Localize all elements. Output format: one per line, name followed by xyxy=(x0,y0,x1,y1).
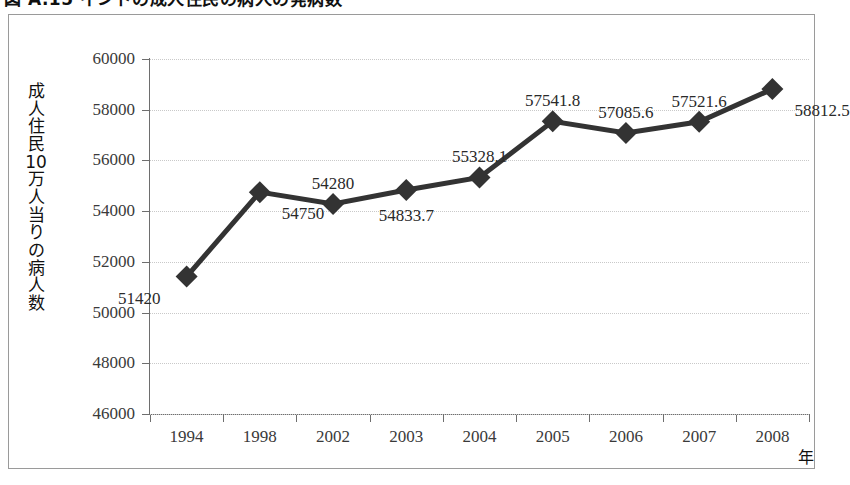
y-tick-label: 46000 xyxy=(65,404,135,424)
data-point-marker[interactable] xyxy=(395,179,417,201)
data-point-label: 55328.1 xyxy=(452,147,507,167)
plot-area: 51420547505428054833.755328.157541.85708… xyxy=(150,59,809,414)
x-tick-label: 2006 xyxy=(586,427,666,447)
x-tick-label: 1998 xyxy=(220,427,300,447)
x-tick-label: 2007 xyxy=(659,427,739,447)
x-tick-label: 1994 xyxy=(147,427,227,447)
x-axis-title: 年 xyxy=(798,444,814,468)
x-tick-mark xyxy=(223,414,224,422)
chart-frame: 成人住民10万人当りの病人数 年 46000480005000052000540… xyxy=(8,14,815,469)
y-tick-mark xyxy=(142,211,150,212)
data-point-label: 54280 xyxy=(312,174,355,194)
y-tick-label: 48000 xyxy=(65,353,135,373)
y-tick-label: 54000 xyxy=(65,201,135,221)
y-tick-mark xyxy=(142,414,150,415)
y-tick-mark xyxy=(142,262,150,263)
x-tick-label: 2008 xyxy=(732,427,812,447)
x-tick-mark xyxy=(663,414,664,422)
x-tick-mark xyxy=(370,414,371,422)
data-point-marker[interactable] xyxy=(615,122,637,144)
x-tick-mark xyxy=(516,414,517,422)
x-tick-mark xyxy=(589,414,590,422)
x-tick-mark xyxy=(443,414,444,422)
data-point-label: 54833.7 xyxy=(379,206,434,226)
data-point-label: 51420 xyxy=(118,289,161,309)
x-tick-mark xyxy=(296,414,297,422)
x-tick-label: 2005 xyxy=(513,427,593,447)
data-point-marker[interactable] xyxy=(688,111,710,133)
y-tick-mark xyxy=(142,313,150,314)
y-tick-label: 58000 xyxy=(65,100,135,120)
gridline xyxy=(150,414,809,415)
data-point-label: 57541.8 xyxy=(525,91,580,111)
data-point-label: 58812.5 xyxy=(794,101,849,121)
x-tick-mark xyxy=(736,414,737,422)
y-tick-mark xyxy=(142,59,150,60)
y-tick-mark xyxy=(142,160,150,161)
x-tick-label: 2003 xyxy=(366,427,446,447)
figure-caption: 図 A.15 インドの成人住民の病人の発病数 xyxy=(0,0,829,12)
data-point-marker[interactable] xyxy=(322,193,344,215)
y-axis-title: 成人住民10万人当りの病人数 xyxy=(23,83,49,313)
x-tick-label: 2002 xyxy=(293,427,373,447)
series-line-chart xyxy=(150,59,809,414)
y-tick-label: 52000 xyxy=(65,252,135,272)
x-tick-label: 2004 xyxy=(440,427,520,447)
data-point-label: 57521.6 xyxy=(672,92,727,112)
y-tick-label: 56000 xyxy=(65,150,135,170)
data-point-label: 54750 xyxy=(282,204,325,224)
figure-caption-text: 図 A.15 インドの成人住民の病人の発病数 xyxy=(4,0,342,10)
x-tick-mark xyxy=(150,414,151,422)
y-tick-label: 60000 xyxy=(65,49,135,69)
y-tick-mark xyxy=(142,110,150,111)
data-point-label: 57085.6 xyxy=(598,103,653,123)
x-tick-mark xyxy=(809,414,810,422)
y-tick-mark xyxy=(142,363,150,364)
data-point-marker[interactable] xyxy=(761,78,783,100)
